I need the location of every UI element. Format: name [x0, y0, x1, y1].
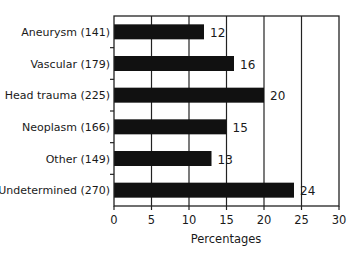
- bar: [114, 119, 227, 134]
- category-label: Head trauma (225): [5, 89, 110, 102]
- x-tick-label: 5: [148, 213, 155, 227]
- bar-chart: 051015202530 Aneurysm (141)Vascular (179…: [0, 0, 356, 256]
- value-label: 20: [270, 89, 285, 103]
- value-label: 15: [233, 121, 248, 135]
- category-label: Other (149): [46, 153, 110, 166]
- x-tick-label: 25: [294, 213, 309, 227]
- category-label: Vascular (179): [30, 58, 110, 71]
- value-label: 16: [240, 58, 255, 72]
- category-labels: Aneurysm (141)Vascular (179)Head trauma …: [0, 26, 110, 197]
- gridlines: [152, 16, 302, 206]
- bar: [114, 183, 294, 198]
- value-label: 12: [210, 26, 225, 40]
- bars: [114, 24, 294, 197]
- value-labels: 121620151324: [210, 26, 315, 198]
- category-label: Aneurysm (141): [21, 26, 110, 39]
- x-axis-title: Percentages: [191, 232, 262, 246]
- x-tick-label: 30: [332, 213, 347, 227]
- value-label: 24: [300, 184, 315, 198]
- bar: [114, 88, 264, 103]
- category-label: Undetermined (270): [0, 184, 110, 197]
- category-label: Neoplasm (166): [22, 121, 110, 134]
- bar: [114, 24, 204, 39]
- x-tick-label: 0: [110, 213, 117, 227]
- bar: [114, 56, 234, 71]
- x-tick-label: 20: [257, 213, 272, 227]
- bar: [114, 151, 212, 166]
- x-axis-ticks: 051015202530: [110, 206, 346, 227]
- value-label: 13: [218, 153, 233, 167]
- x-tick-label: 10: [182, 213, 197, 227]
- x-tick-label: 15: [219, 213, 234, 227]
